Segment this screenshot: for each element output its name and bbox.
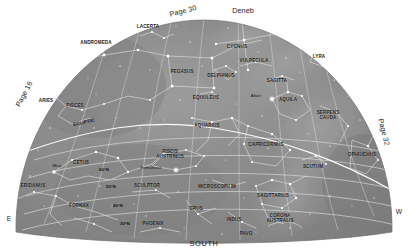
sky-svg xyxy=(0,0,409,251)
sky-dome xyxy=(0,0,409,251)
star-chart: ANDROMEDALACERTACYGNUSLYRAVULPECULAPEGAS… xyxy=(0,0,409,251)
